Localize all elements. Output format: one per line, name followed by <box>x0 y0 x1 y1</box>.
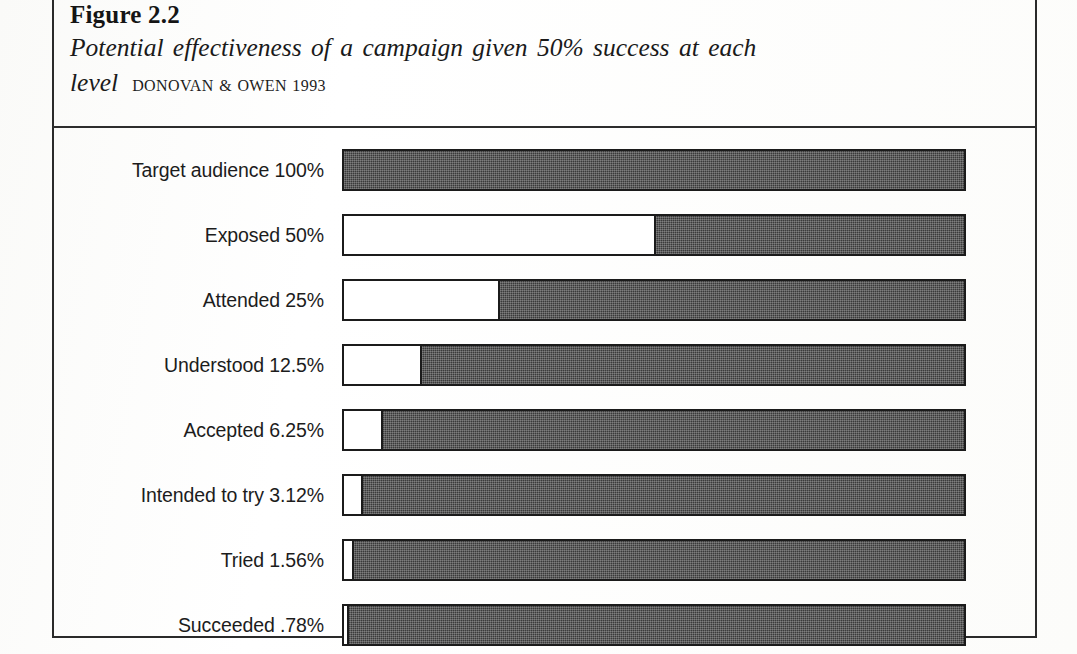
bar-track <box>342 604 966 646</box>
bar-label: Tried 1.56% <box>52 549 324 572</box>
figure-source-citation: DONOVAN & OWEN 1993 <box>132 77 326 94</box>
bar-label: Attended 25% <box>52 289 324 312</box>
bar-unfilled-segment <box>344 216 656 254</box>
bar-track <box>342 539 966 581</box>
bar-track <box>342 279 966 321</box>
bar-row: Understood 12.5% <box>52 344 1037 386</box>
bar-track <box>342 149 966 191</box>
bar-track <box>342 409 966 451</box>
bar-label: Accepted 6.25% <box>52 419 324 442</box>
bar-unfilled-segment <box>344 346 422 384</box>
bar-unfilled-segment <box>344 411 383 449</box>
bar-row: Exposed 50% <box>52 214 1037 256</box>
bar-row: Intended to try 3.12% <box>52 474 1037 516</box>
figure-title-line: Potential effectiveness of a campaign gi… <box>70 30 860 100</box>
bar-label: Understood 12.5% <box>52 354 324 377</box>
bar-track <box>342 344 966 386</box>
bar-unfilled-segment <box>344 541 354 579</box>
bar-chart: Target audience 100%Exposed 50%Attended … <box>52 128 1037 637</box>
bar-row: Attended 25% <box>52 279 1037 321</box>
bar-label: Succeeded .78% <box>52 614 324 637</box>
bar-track <box>342 474 966 516</box>
bar-unfilled-segment <box>344 476 363 514</box>
figure-number: Figure 2.2 <box>70 2 1000 28</box>
bar-row: Target audience 100% <box>52 149 1037 191</box>
bar-row: Accepted 6.25% <box>52 409 1037 451</box>
bar-row: Tried 1.56% <box>52 539 1037 581</box>
figure-caption: Figure 2.2 Potential effectiveness of a … <box>70 2 1000 100</box>
bar-label: Intended to try 3.12% <box>52 484 324 507</box>
bar-label: Target audience 100% <box>52 159 324 182</box>
bar-unfilled-segment <box>344 281 500 319</box>
bar-label: Exposed 50% <box>52 224 324 247</box>
bar-row: Succeeded .78% <box>52 604 1037 646</box>
bar-unfilled-segment <box>344 606 349 644</box>
bar-track <box>342 214 966 256</box>
